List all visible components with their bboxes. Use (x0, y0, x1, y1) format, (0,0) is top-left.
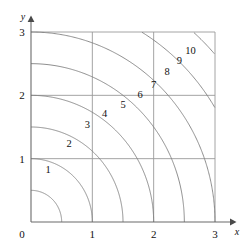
y-tick-label-3: 3 (19, 26, 25, 38)
contour-curve-1 (31, 190, 62, 222)
contour-labels: 12345678910 (46, 45, 196, 175)
contour-curve-8 (194, 33, 214, 54)
y-axis-title: y (20, 11, 26, 22)
x-tick-label-3: 3 (212, 228, 218, 240)
contour-label-10: 10 (185, 45, 196, 56)
contour-label-6: 6 (138, 89, 143, 100)
contour-curve-2 (31, 159, 92, 222)
contour-plot-figure: 0123123 12345678910 y x (0, 0, 244, 250)
contour-label-3: 3 (85, 119, 90, 130)
contour-label-4: 4 (102, 108, 108, 119)
grid-lines (31, 32, 215, 222)
contour-label-8: 8 (165, 66, 170, 77)
contour-label-7: 7 (151, 79, 156, 90)
x-tick-label-0: 0 (19, 228, 25, 240)
y-tick-label-1: 1 (19, 153, 25, 165)
axes (28, 16, 237, 226)
contour-label-5: 5 (120, 99, 125, 110)
contour-label-9: 9 (177, 55, 182, 66)
x-tick-label-1: 1 (90, 228, 96, 240)
y-tick-label-2: 2 (19, 89, 25, 101)
x-tick-label-2: 2 (151, 228, 157, 240)
contour-label-2: 2 (66, 138, 71, 149)
x-axis-arrow-icon (230, 219, 237, 226)
contour-curve-6 (31, 32, 215, 222)
contour-curve-7 (142, 32, 215, 107)
x-axis-title: x (234, 226, 240, 237)
contour-label-1: 1 (46, 164, 51, 175)
contour-curves (31, 32, 215, 222)
y-axis-arrow-icon (28, 16, 35, 23)
contour-plot-canvas: 0123123 12345678910 y x (0, 0, 244, 250)
